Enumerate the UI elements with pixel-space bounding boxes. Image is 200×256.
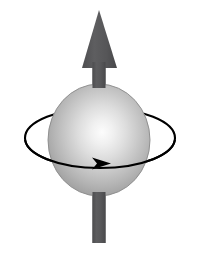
spin-arrow-shaft-front-lower: [93, 192, 106, 243]
sphere-body: [48, 84, 150, 196]
sphere-group: [48, 84, 150, 196]
spin-arrow-shaft-neck: [93, 62, 106, 88]
spin-diagram-figure: Spinning sphere with spin angular moment…: [0, 0, 200, 256]
spin-diagram-canvas: Spinning sphere with spin angular moment…: [0, 0, 200, 256]
